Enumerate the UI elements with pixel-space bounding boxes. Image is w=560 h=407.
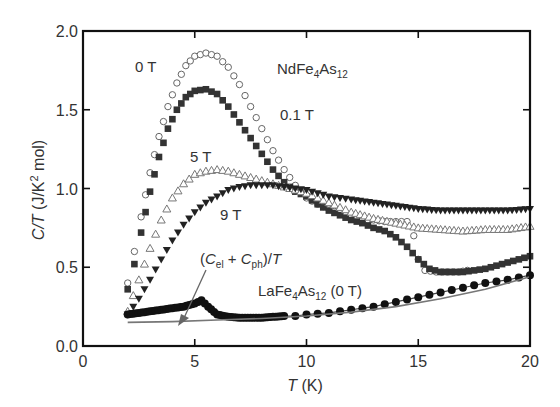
series-0-1-t [124,86,533,293]
label-9T: 9 T [220,206,241,223]
label-ndfe4as12: NdFe4As12 [277,60,348,80]
label-lafe4as12: LaFe4As12 (0 T) [258,282,362,302]
y-tick-label: 2.0 [56,23,78,40]
heat-capacity-chart: 051015200.00.51.01.52.0 T (K) C/T (J/K2 … [0,0,560,407]
label-cel-cph: (Cel + Cph)/T [200,250,283,270]
x-tick-label: 5 [190,353,199,370]
label-0.1T: 0.1 T [280,106,314,123]
x-tick-label: 20 [521,353,539,370]
label-5T: 5 T [190,148,211,165]
label-0T: 0 T [135,58,156,75]
x-axis-title: T (K) [287,377,323,394]
series-0-t [125,50,471,286]
x-tick-label: 10 [298,353,316,370]
y-tick-label: 1.0 [56,181,78,198]
y-tick-label: 0.0 [56,338,78,355]
y-tick-label: 0.5 [56,259,78,276]
x-tick-label: 15 [409,353,427,370]
x-tick-label: 0 [79,353,88,370]
y-tick-label: 1.5 [56,102,78,119]
y-axis-title: C/T (J/K2 mol) [28,140,47,240]
